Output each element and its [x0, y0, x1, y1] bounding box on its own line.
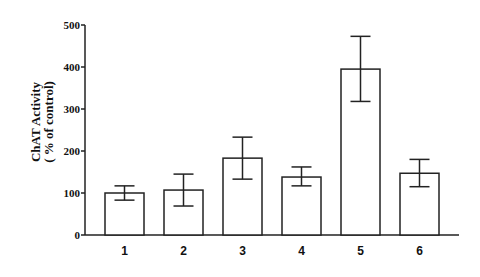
- x-tick-label: 2: [180, 244, 187, 258]
- x-tick-label: 1: [121, 244, 128, 258]
- bar-group: [341, 36, 380, 235]
- y-axis-title: ChAT Activity ( % of control): [28, 81, 56, 163]
- x-tick-label: 6: [416, 244, 423, 258]
- y-tick-label: 500: [64, 19, 81, 31]
- x-tick-label: 4: [298, 244, 305, 258]
- x-tick-label: 5: [357, 244, 364, 258]
- bar-chart: ChAT Activity ( % of control) 0100200300…: [0, 0, 480, 277]
- bar-group: [282, 167, 321, 235]
- y-axis: 0100200300400500: [64, 19, 86, 241]
- y-tick-label: 100: [64, 187, 81, 199]
- bar-group: [223, 137, 262, 235]
- y-axis-title-line2: ( % of control): [41, 81, 56, 163]
- bar-group: [105, 186, 144, 235]
- x-axis-labels: 123456: [121, 244, 423, 258]
- y-tick-label: 200: [64, 145, 81, 157]
- y-tick-label: 300: [64, 103, 81, 115]
- bar-group: [400, 159, 439, 235]
- x-tick-label: 3: [239, 244, 246, 258]
- y-tick-label: 400: [64, 61, 81, 73]
- y-tick-label: 0: [75, 229, 81, 241]
- bars: [105, 36, 439, 235]
- bar-group: [164, 174, 203, 235]
